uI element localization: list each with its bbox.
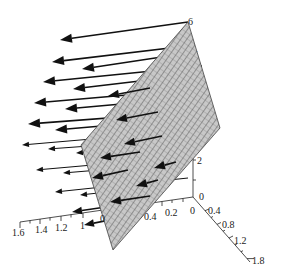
- x-tick-1: 1: [80, 220, 85, 231]
- arrow-head-icon: [76, 150, 83, 155]
- arrow-head-icon: [22, 142, 29, 147]
- y-tick-1.8: 1.8: [252, 255, 265, 266]
- arrow-head-icon: [55, 189, 62, 194]
- y-tick-1.2: 1.2: [234, 235, 247, 246]
- arrow-head-icon: [60, 34, 73, 43]
- arrow-head-icon: [65, 103, 77, 112]
- arrow-head-icon: [55, 124, 67, 133]
- x-tick-0: 0: [190, 205, 195, 216]
- x-tick-1.6: 1.6: [12, 227, 25, 238]
- arrow-head-icon: [34, 97, 46, 106]
- arrow-head-icon: [80, 192, 87, 197]
- x-tick-1.4: 1.4: [35, 224, 48, 235]
- arrow-head-icon: [82, 63, 95, 72]
- arrow-head-icon: [52, 56, 64, 65]
- plane-label: 0: [100, 213, 105, 224]
- arrow-head-icon: [84, 219, 95, 226]
- y-tick-0.4: 0.4: [208, 205, 221, 216]
- arrow-shaft: [72, 22, 188, 38]
- arrow-head-icon: [36, 167, 43, 172]
- vector-field-plot: 6 5 2 0 1.6 1.4 1.2 1 0.4 0.2 0 0.4 0.8 …: [0, 0, 283, 278]
- x-tick-0.2: 0.2: [165, 207, 178, 218]
- arrow-head-icon: [73, 83, 85, 92]
- arrow-head-icon: [72, 207, 82, 215]
- z-tick-2: 2: [197, 155, 202, 166]
- y-tick-0.8: 0.8: [222, 219, 235, 230]
- arrow-head-icon: [28, 119, 40, 128]
- arrow-head-icon: [63, 170, 70, 175]
- z-tick-0: 0: [199, 191, 204, 202]
- arrow-head-icon: [48, 146, 55, 151]
- arrow-head-icon: [43, 76, 55, 85]
- x-tick-1.2: 1.2: [55, 222, 68, 233]
